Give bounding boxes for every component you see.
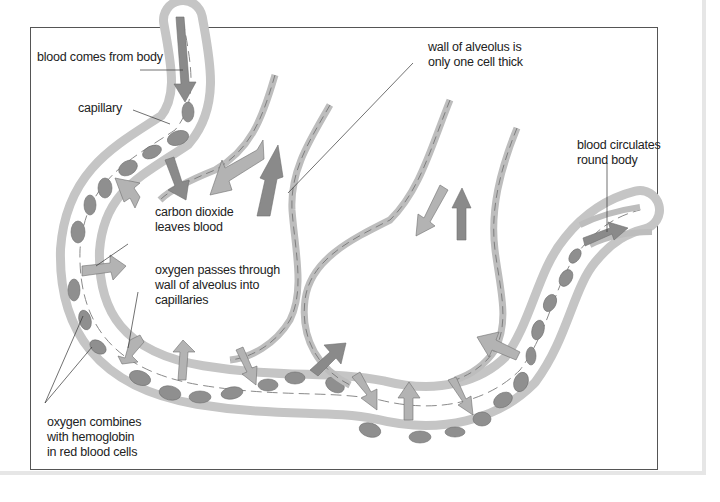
label-line: with hemoglobin	[47, 430, 141, 445]
label-line: in red blood cells	[47, 445, 141, 460]
label-line: only one cell thick	[428, 55, 523, 70]
label-wall-of-alveolus: wall of alveolus is only one cell thick	[428, 40, 523, 70]
label-line: round body	[577, 153, 661, 168]
arrow-right-alveolus-down	[416, 185, 448, 236]
label-line: carbon dioxide	[155, 205, 234, 220]
label-line: oxygen passes through	[155, 263, 280, 278]
label-text: capillary	[78, 101, 122, 115]
label-line: blood circulates	[577, 138, 661, 153]
label-line: leaves blood	[155, 220, 234, 235]
label-line: wall of alveolus into	[155, 278, 280, 293]
label-capillary: capillary	[78, 101, 122, 116]
label-line: oxygen combines	[47, 415, 141, 430]
label-carbon-dioxide: carbon dioxide leaves blood	[155, 205, 234, 235]
label-text: blood comes from body	[37, 50, 163, 64]
label-oxygen-passes: oxygen passes through wall of alveolus i…	[155, 263, 280, 308]
label-line: capillaries	[155, 293, 280, 308]
label-line: wall of alveolus is	[428, 40, 523, 55]
arrow-right-alveolus-up	[452, 188, 471, 240]
label-blood-from-body: blood comes from body	[37, 50, 163, 65]
label-oxygen-combines: oxygen combines with hemoglobin in red b…	[47, 415, 141, 460]
label-blood-circulates: blood circulates round body	[577, 138, 661, 168]
